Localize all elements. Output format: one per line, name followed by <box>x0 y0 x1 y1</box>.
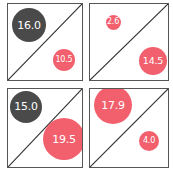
panel-bottom-left: 15.019.5 <box>7 88 83 168</box>
value-bubble-lower: 10.5 <box>53 49 75 71</box>
value-label: 4.0 <box>143 137 155 145</box>
value-label: 16.0 <box>17 20 41 31</box>
value-bubble-upper: 16.0 <box>12 8 46 42</box>
value-label: 2.6 <box>107 18 119 26</box>
value-label: 19.5 <box>52 134 76 145</box>
panel-top-left: 16.010.5 <box>7 3 83 81</box>
value-bubble-lower: 19.5 <box>43 118 83 160</box>
value-bubble-lower: 4.0 <box>139 131 159 151</box>
value-bubble-upper: 15.0 <box>10 91 42 123</box>
value-label: 10.5 <box>55 56 72 64</box>
value-bubble-lower: 14.5 <box>139 47 167 75</box>
value-label: 15.0 <box>14 102 37 113</box>
panel-bottom-right: 17.94.0 <box>89 88 169 168</box>
value-bubble-upper: 2.6 <box>106 15 121 30</box>
panel-top-right: 2.614.5 <box>89 3 169 81</box>
value-label: 14.5 <box>143 56 163 66</box>
value-label: 17.9 <box>101 100 125 111</box>
